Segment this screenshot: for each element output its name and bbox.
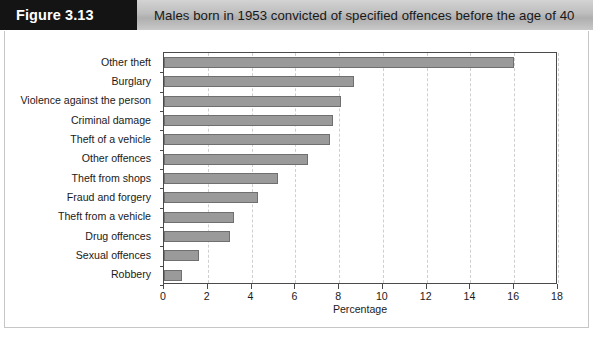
- bar-row: [164, 92, 341, 111]
- bar-row: [164, 111, 333, 130]
- x-axis-tick: [338, 284, 339, 289]
- x-axis-tick-label: 8: [335, 290, 341, 302]
- bar-row: [164, 266, 182, 285]
- bar-series: [164, 53, 556, 283]
- x-axis-tick: [469, 284, 470, 289]
- bar-row: [164, 227, 230, 246]
- x-axis-tick-label: 16: [507, 290, 519, 302]
- x-axis-tick: [426, 284, 427, 289]
- bar: [164, 57, 514, 68]
- x-axis-tick: [251, 284, 252, 289]
- bar-row: [164, 246, 199, 265]
- y-axis-category-labels: Other theftBurglaryViolence against the …: [0, 52, 158, 284]
- x-axis-tick-label: 18: [551, 290, 563, 302]
- bar: [164, 192, 258, 203]
- bar-row: [164, 208, 234, 227]
- y-axis-label: Burglary: [112, 71, 151, 90]
- figure-title: Males born in 1953 convicted of specifie…: [137, 0, 593, 30]
- x-axis-tick: [557, 284, 558, 289]
- y-axis-label: Criminal damage: [71, 110, 151, 129]
- bar-row: [164, 150, 308, 169]
- y-axis-label: Sexual offences: [76, 245, 151, 264]
- figure-header: Figure 3.13 Males born in 1953 convicted…: [0, 0, 593, 30]
- x-axis-title: Percentage: [163, 303, 557, 315]
- bar-row: [164, 72, 354, 91]
- bar: [164, 270, 182, 281]
- bar-row: [164, 188, 258, 207]
- y-axis-label: Other offences: [82, 149, 151, 168]
- bar-row: [164, 130, 330, 149]
- bar: [164, 76, 354, 87]
- x-axis-tick: [294, 284, 295, 289]
- bar: [164, 154, 308, 165]
- plot-area: [163, 52, 557, 284]
- y-axis-label: Theft from a vehicle: [58, 207, 151, 226]
- y-axis-label: Theft from shops: [72, 168, 151, 187]
- x-axis-tick-label: 14: [464, 290, 476, 302]
- y-axis-label: Theft of a vehicle: [70, 129, 151, 148]
- y-axis-label: Violence against the person: [20, 91, 151, 110]
- x-axis-tick: [513, 284, 514, 289]
- x-axis-tick-label: 10: [376, 290, 388, 302]
- y-axis-label: Fraud and forgery: [67, 187, 151, 206]
- x-axis-tick-label: 12: [420, 290, 432, 302]
- x-axis-tick-label: 6: [291, 290, 297, 302]
- y-axis-label: Robbery: [111, 265, 151, 284]
- bar: [164, 212, 234, 223]
- figure-number-tag: Figure 3.13: [0, 0, 137, 30]
- bar: [164, 115, 333, 126]
- x-axis-tick: [382, 284, 383, 289]
- bar: [164, 173, 278, 184]
- y-axis-label: Drug offences: [85, 226, 151, 245]
- bar-row: [164, 53, 514, 72]
- x-axis-tick: [207, 284, 208, 289]
- x-axis-tick-label: 2: [204, 290, 210, 302]
- x-axis-tick: [163, 284, 164, 289]
- bar: [164, 96, 341, 107]
- bar-row: [164, 169, 278, 188]
- bar: [164, 231, 230, 242]
- figure-container: Figure 3.13 Males born in 1953 convicted…: [0, 0, 593, 338]
- x-axis-tick-label: 4: [248, 290, 254, 302]
- bar: [164, 250, 199, 261]
- x-axis-tick-label: 0: [160, 290, 166, 302]
- bar: [164, 134, 330, 145]
- y-axis-label: Other theft: [101, 52, 151, 71]
